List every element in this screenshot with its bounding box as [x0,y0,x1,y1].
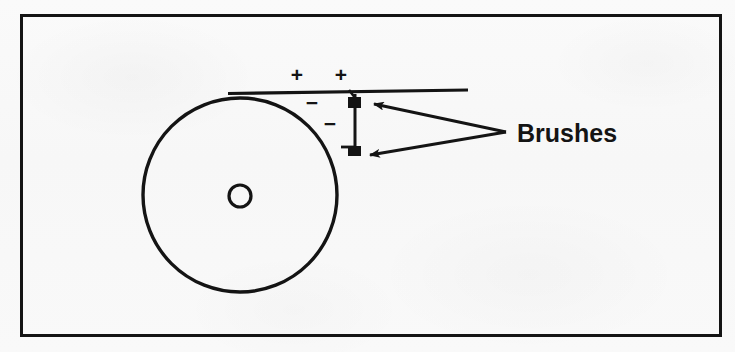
figure-page: + + − − Brushes [0,0,735,352]
brushes-label: Brushes [517,119,617,147]
shaft-hole [229,185,251,207]
polarity-minus-2: − [324,112,336,135]
brushes-diagram: + + − − Brushes [0,0,735,352]
leader-to-lower-brush [370,132,506,155]
polarity-minus-1: − [306,91,318,114]
rotating-disc [143,98,337,292]
figure-border [22,16,721,336]
lower-brush-contact [348,146,361,156]
horizontal-conductor-bar [228,90,468,94]
polarity-plus-2: + [335,63,347,86]
leader-to-upper-brush [374,104,506,132]
polarity-plus-1: + [291,63,303,86]
upper-brush-contact [348,97,361,108]
